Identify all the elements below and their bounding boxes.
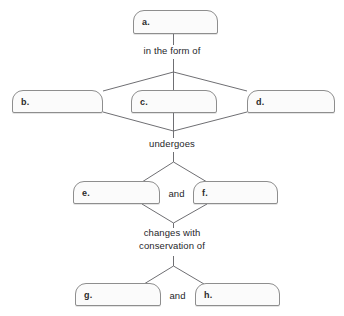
node-label-g: g.	[84, 290, 92, 299]
connector-diamond1-bottom-left	[103, 112, 174, 131]
node-box-a[interactable]: a.	[133, 10, 218, 34]
connector-diamond2-top-left	[142, 162, 174, 182]
node-label-h: h.	[204, 290, 212, 299]
connector-diamond1-top-left	[103, 72, 174, 91]
edge-label-changes-with-conservation-of: changes with conservation of	[107, 227, 237, 252]
connector-diamond2-bottom-right	[174, 204, 208, 223]
connector-fork-right	[174, 266, 205, 284]
node-label-d: d.	[256, 97, 264, 106]
concept-map-diagram: a. b. c. d. e. f. g. h. in the form of u…	[0, 0, 344, 316]
connector-diamond2-top-right	[174, 162, 208, 182]
conjunction-label-and-ef: and	[160, 188, 193, 199]
node-label-e: e.	[82, 188, 90, 197]
node-box-g[interactable]: g.	[75, 283, 161, 306]
node-label-b: b.	[21, 97, 29, 106]
node-box-d[interactable]: d.	[247, 90, 335, 113]
node-box-c[interactable]: c.	[131, 90, 217, 113]
node-box-f[interactable]: f.	[193, 181, 278, 204]
edge-label-undergoes: undergoes	[126, 138, 218, 151]
node-label-f: f.	[202, 188, 208, 197]
conjunction-label-and-gh: and	[161, 290, 194, 301]
connector-diamond2-bottom-left	[142, 204, 174, 223]
connector-diamond1-top-right	[174, 72, 248, 91]
edge-label-in-the-form-of: in the form of	[119, 45, 225, 58]
connector-diamond1-bottom-right	[174, 112, 248, 131]
node-box-b[interactable]: b.	[12, 90, 103, 113]
node-box-e[interactable]: e.	[73, 181, 160, 204]
node-label-a: a.	[142, 18, 150, 27]
connector-fork-left	[144, 266, 174, 284]
node-label-c: c.	[140, 97, 148, 106]
node-box-h[interactable]: h.	[195, 283, 280, 306]
